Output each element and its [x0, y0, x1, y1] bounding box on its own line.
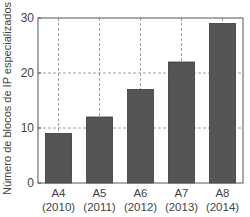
bar [128, 90, 154, 184]
x-tick-label: A6 [133, 187, 147, 199]
y-tick-label: 10 [21, 121, 35, 135]
chart-canvas: 0102030A4(2010)A5(2011)A6(2012)A7(2013)A… [0, 0, 250, 217]
x-tick-label: A8 [215, 187, 229, 199]
y-tick-label: 30 [21, 11, 35, 25]
x-tick-label: A7 [174, 187, 188, 199]
x-tick-label: (2011) [83, 201, 116, 213]
x-tick-label: A5 [92, 187, 106, 199]
bar [169, 62, 195, 183]
bar [87, 117, 113, 183]
x-tick-label: (2012) [124, 201, 157, 213]
x-tick-label: (2013) [165, 201, 198, 213]
y-tick-label: 0 [27, 176, 34, 190]
y-tick-label: 20 [21, 66, 35, 80]
x-tick-label: (2014) [206, 201, 239, 213]
x-tick-label: A4 [51, 187, 66, 199]
bar [210, 24, 236, 184]
bar [46, 134, 72, 184]
x-tick-label: (2010) [42, 201, 75, 213]
